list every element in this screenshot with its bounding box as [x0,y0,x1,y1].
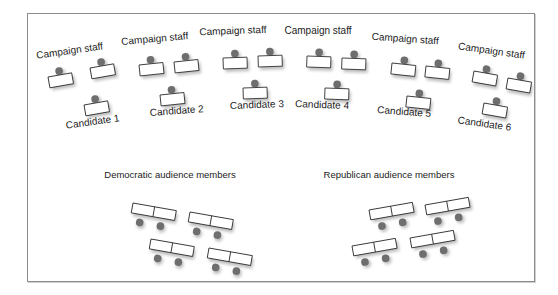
staff-station-2 [173,52,201,76]
staff-station-2 [342,50,369,73]
staff-station-2 [506,70,535,96]
stage-groups: Campaign staffCandidate 1Campaign staffC… [36,24,535,133]
audience-row-4 [410,230,460,262]
candidate-group-6: Campaign staffCandidate 6 [457,40,535,132]
staff-station-1 [391,55,419,79]
desk-icon [223,57,247,69]
staff-station-2 [89,56,118,82]
staff-station-1 [47,65,76,91]
campaign-staff-label: Campaign staff [458,40,526,60]
audience-row-3 [147,239,197,271]
seating-canvas: Campaign staffCandidate 1Campaign staffC… [0,0,558,295]
candidate-group-5: Campaign staffCandidate 5 [371,31,452,119]
audience-row-1 [369,202,419,234]
candidate-label: Candidate 4 [295,98,350,111]
campaign-staff-label: Campaign staff [284,25,351,36]
staff-station-1 [307,48,334,71]
staff-station-1 [223,49,250,72]
candidate-label: Candidate 1 [65,112,120,130]
campaign-staff-label: Campaign staff [199,24,267,37]
audience-row-3 [352,238,402,270]
campaign-staff-label: Campaign staff [371,31,439,47]
debate-seating-diagram: Campaign staffCandidate 1Campaign staffC… [0,0,558,295]
desk-icon [342,58,366,70]
candidate-label: Candidate 3 [230,98,285,111]
republican-audience-section: Republican audience members [324,169,475,270]
desk-icon [258,55,282,67]
desk-icon [425,66,450,79]
audience-row-1 [129,203,179,235]
staff-station-2 [258,47,285,70]
candidate-group-3: Campaign staffCandidate 3 [199,24,284,111]
audience-section-label: Republican audience members [324,169,455,180]
candidate-group-4: Campaign staffCandidate 4 [284,25,368,111]
desk-icon [243,87,267,99]
audience-row-2 [186,212,236,244]
democratic-audience-section: Democratic audience members [104,169,254,280]
desk-icon [391,63,416,76]
campaign-staff-label: Campaign staff [36,40,104,60]
staff-station-2 [425,58,453,82]
audience-section-label: Democratic audience members [104,169,236,180]
staff-station-1 [472,63,501,89]
candidate-group-1: Campaign staffCandidate 1 [36,40,121,130]
audience-sections: Democratic audience membersRepublican au… [104,169,474,280]
desk-icon [325,88,349,100]
candidate-group-2: Campaign staffCandidate 2 [121,30,205,118]
desk-icon [139,62,164,75]
candidate-label: Candidate 2 [149,103,204,118]
staff-station-1 [138,55,166,79]
desk-icon [174,59,199,72]
campaign-staff-label: Campaign staff [121,30,189,47]
desk-icon [307,56,331,68]
audience-row-4 [205,248,255,280]
audience-row-2 [425,197,475,229]
